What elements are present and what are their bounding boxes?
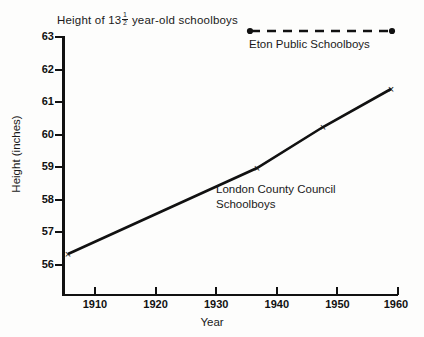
y-tick-label-59: 59 xyxy=(0,161,54,172)
lcc-label-line-1: London County Council xyxy=(216,182,336,197)
y-tick-label-57: 57 xyxy=(0,226,54,237)
y-tick-56 xyxy=(55,264,63,266)
y-tick-label-63: 63 xyxy=(0,31,54,42)
chart-title-prefix: Height of 13 xyxy=(57,14,121,26)
chart-figure: Height of 1312 year-old schoolboys 63 62… xyxy=(0,0,424,337)
chart-title: Height of 1312 year-old schoolboys xyxy=(57,12,238,26)
y-tick-63 xyxy=(55,36,63,38)
y-tick-label-60: 60 xyxy=(0,129,54,140)
x-tick-1950 xyxy=(336,287,338,295)
title-fraction-one-half: 12 xyxy=(122,12,128,26)
data-point-marker-1958: × xyxy=(388,84,394,95)
y-tick-59 xyxy=(55,166,63,168)
legend-label-eton: Eton Public Schoolboys xyxy=(249,38,370,50)
x-axis-line xyxy=(62,294,398,297)
data-point-marker-1938: × xyxy=(254,163,260,174)
x-tick-label-1910: 1910 xyxy=(75,299,115,310)
x-tick-label-1930: 1930 xyxy=(196,299,236,310)
x-tick-label-1940: 1940 xyxy=(257,299,297,310)
y-tick-62 xyxy=(55,69,63,71)
chart-title-suffix: year-old schoolboys xyxy=(132,14,238,26)
x-tick-label-1960: 1960 xyxy=(376,299,416,310)
x-tick-1960 xyxy=(397,287,399,295)
x-tick-1930 xyxy=(215,287,217,295)
lcc-label-line-2: Schoolboys xyxy=(216,197,336,212)
series-eton-endpoint-dot-left xyxy=(247,28,253,34)
x-tick-1940 xyxy=(276,287,278,295)
x-tick-1910 xyxy=(94,287,96,295)
x-tick-label-1920: 1920 xyxy=(136,299,176,310)
fraction-denominator: 2 xyxy=(122,20,128,27)
y-tick-60 xyxy=(55,134,63,136)
y-axis-title: Height (inches) xyxy=(10,104,22,204)
y-tick-58 xyxy=(55,199,63,201)
data-point-marker-1948: × xyxy=(320,122,326,133)
series-london-county-council-line xyxy=(68,89,391,254)
legend-label-london-county-council: London County Council Schoolboys xyxy=(216,182,336,211)
y-tick-label-58: 58 xyxy=(0,194,54,205)
y-tick-label-61: 61 xyxy=(0,96,54,107)
x-tick-1920 xyxy=(155,287,157,295)
x-axis-title: Year xyxy=(0,316,424,328)
y-tick-57 xyxy=(55,231,63,233)
series-eton-endpoint-dot-right xyxy=(389,28,395,34)
x-tick-label-1950: 1950 xyxy=(317,299,357,310)
y-tick-label-62: 62 xyxy=(0,64,54,75)
y-tick-61 xyxy=(55,101,63,103)
data-point-marker-1907: × xyxy=(65,249,71,260)
y-tick-label-56: 56 xyxy=(0,259,54,270)
